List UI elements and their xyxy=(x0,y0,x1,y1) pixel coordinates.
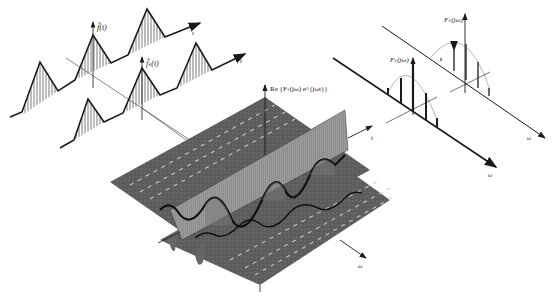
spectrum-top: Fₛ(jω) ω xyxy=(382,14,545,141)
signal-top-label: f̃(t) xyxy=(97,22,107,32)
signal-bottom-label: f̃ₛ(t) xyxy=(146,58,159,68)
spectrum-bottom-label: Fₛ(jω) xyxy=(389,56,409,64)
spectrum-top-label: Fₛ(jω) xyxy=(443,16,463,24)
surface-omega-axis-label: ω xyxy=(358,263,362,269)
surface-z-axis-label: Re {Fₛ(jω) e^{jωt}} xyxy=(270,85,328,93)
surface-t-axis-label: t xyxy=(371,134,374,142)
diagram-canvas: f̃(t) t f̃ₛ(t) t Fₛ(jω) ω xyxy=(0,0,555,297)
time-signal-top: f̃(t) t xyxy=(10,9,200,117)
freq-axis-bottom-label: ω xyxy=(488,172,492,178)
time-axis-bottom-label: t xyxy=(240,57,243,65)
spectrum-bottom: Fₛ(jω) ω xyxy=(333,56,496,178)
freq-axis-top-label: ω xyxy=(527,135,531,141)
time-axis-top-label: t xyxy=(192,29,195,37)
